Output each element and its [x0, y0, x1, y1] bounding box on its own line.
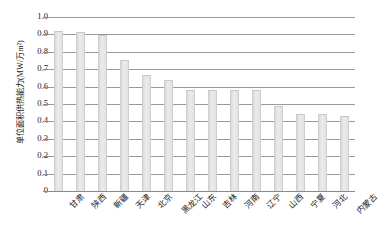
y-tick-mark — [43, 191, 48, 192]
y-tick-mark — [43, 69, 48, 70]
y-tick-mark — [43, 174, 48, 175]
y-tick-label: 0 — [2, 186, 48, 195]
bar — [318, 114, 327, 191]
plot-area — [48, 17, 355, 191]
x-tick-label: 河南 — [244, 193, 261, 210]
y-tick-label: 0.4 — [2, 116, 48, 125]
y-tick-label: 0.2 — [2, 151, 48, 160]
gridline — [48, 121, 355, 122]
gridline — [48, 104, 355, 105]
gridline — [48, 191, 355, 192]
y-tick-label: 0.1 — [2, 169, 48, 178]
y-tick-mark — [43, 52, 48, 53]
gridline — [48, 156, 355, 157]
bar — [208, 90, 217, 191]
bar — [98, 35, 107, 191]
gridline — [48, 139, 355, 140]
y-tick-label: 0.8 — [2, 47, 48, 56]
gridline — [48, 34, 355, 35]
y-tick-label: 0.9 — [2, 29, 48, 38]
bar — [120, 60, 129, 191]
y-tick-label: 1.0 — [2, 12, 48, 21]
x-tick-label: 河北 — [332, 193, 349, 210]
y-tick-mark — [43, 121, 48, 122]
x-tick-label: 天津 — [134, 193, 151, 210]
y-tick-mark — [43, 156, 48, 157]
y-tick-mark — [43, 34, 48, 35]
y-tick-label: 0.6 — [2, 82, 48, 91]
y-tick-label: 0.5 — [2, 99, 48, 108]
bar — [252, 90, 261, 191]
x-tick-label: 新疆 — [112, 193, 129, 210]
bar — [186, 90, 195, 191]
x-tick-label: 宁夏 — [310, 193, 327, 210]
x-tick-label: 吉林 — [222, 193, 239, 210]
bar — [340, 116, 349, 191]
y-tick-mark — [43, 104, 48, 105]
y-tick-mark — [43, 139, 48, 140]
x-tick-label: 山东 — [200, 193, 217, 210]
gridline — [48, 52, 355, 53]
gridline — [48, 174, 355, 175]
x-tick-label: 山西 — [288, 193, 305, 210]
bar — [142, 75, 151, 191]
y-tick-label: 0.3 — [2, 134, 48, 143]
x-tick-label: 内蒙古 — [356, 193, 379, 216]
bar — [54, 31, 63, 191]
x-axis-labels: 甘肃陕西新疆天津北京黑龙江山东吉林河南辽宁山西宁夏河北内蒙古 — [48, 193, 355, 239]
x-tick-label: 陕西 — [91, 193, 108, 210]
bar — [296, 114, 305, 191]
bar — [164, 80, 173, 191]
bar — [76, 32, 85, 191]
x-tick-label: 甘肃 — [69, 193, 86, 210]
x-tick-label: 辽宁 — [266, 193, 283, 210]
gridline — [48, 87, 355, 88]
gridline — [48, 17, 355, 18]
y-tick-label: 0.7 — [2, 64, 48, 73]
y-tick-mark — [43, 17, 48, 18]
x-tick-label: 北京 — [156, 193, 173, 210]
y-tick-mark — [43, 87, 48, 88]
bar — [230, 90, 239, 191]
bar — [274, 106, 283, 191]
gridline — [48, 69, 355, 70]
